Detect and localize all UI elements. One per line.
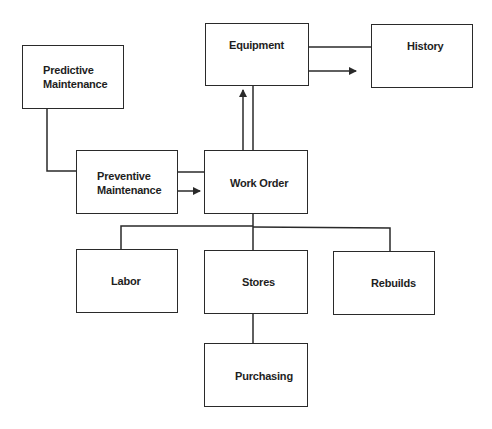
connector-predictive-preventive (47, 108, 76, 171)
node-label: Stores (242, 275, 275, 289)
connector-bus-rebuilds (253, 227, 390, 251)
node-label: Purchasing (235, 369, 293, 383)
node-label: Rebuilds (371, 276, 416, 290)
node-label: Preventive Maintenance (97, 169, 161, 197)
node-label: History (407, 39, 444, 53)
node-label: Labor (111, 274, 141, 288)
node-label: Work Order (230, 176, 288, 190)
connector-bus-labor (121, 226, 253, 249)
node-predictive-maintenance: Predictive Maintenance (22, 45, 124, 109)
maintenance-flow-diagram: Predictive Maintenance Equipment History… (0, 0, 492, 429)
node-preventive-maintenance: Preventive Maintenance (76, 150, 178, 214)
node-label: Predictive Maintenance (43, 63, 107, 91)
node-stores: Stores (204, 250, 308, 314)
node-equipment: Equipment (205, 23, 309, 86)
node-label: Equipment (229, 38, 284, 52)
node-work-order: Work Order (204, 150, 308, 214)
node-history: History (371, 24, 473, 88)
node-labor: Labor (76, 249, 178, 313)
node-rebuilds: Rebuilds (333, 251, 435, 315)
node-purchasing: Purchasing (204, 343, 308, 407)
